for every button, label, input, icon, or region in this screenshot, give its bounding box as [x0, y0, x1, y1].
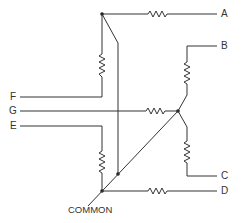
- terminal-label-f: F: [10, 92, 16, 102]
- resistor-c-icon: [184, 141, 190, 163]
- resistor-f-icon: [99, 54, 105, 77]
- wire-f: [20, 14, 105, 97]
- terminal-label-c: C: [221, 171, 228, 181]
- wire-e: [20, 126, 105, 191]
- wire-top-to-common: [102, 14, 118, 174]
- terminal-label-a: A: [221, 9, 228, 19]
- wire-g: [20, 108, 178, 114]
- wire-c: [178, 111, 217, 176]
- terminal-label-g: G: [9, 106, 17, 116]
- wire-common-diagonal: [88, 111, 178, 206]
- wire-d: [102, 188, 217, 194]
- terminal-label-b: B: [221, 41, 228, 51]
- terminal-label-d: D: [221, 186, 228, 196]
- wire-a: [102, 11, 217, 17]
- resistor-g-icon: [146, 108, 165, 114]
- resistor-b-icon: [184, 62, 190, 84]
- wire-b: [178, 46, 217, 111]
- resistor-d-icon: [148, 188, 167, 194]
- terminal-label-e: E: [10, 121, 17, 131]
- resistor-e-icon: [99, 151, 105, 173]
- resistor-a-icon: [148, 11, 167, 17]
- common-label: COMMON: [68, 205, 112, 215]
- resistor-network-schematic: [0, 0, 249, 223]
